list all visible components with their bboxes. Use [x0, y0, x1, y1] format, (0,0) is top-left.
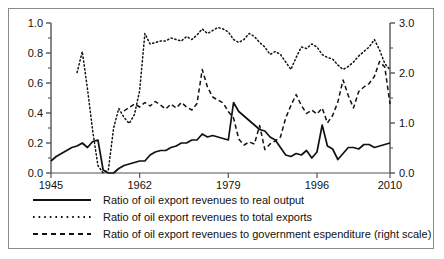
svg-text:0.0: 0.0 [399, 167, 414, 179]
figure-frame: 0.00.20.40.60.81.00.01.02.03.01945196219… [8, 8, 434, 249]
legend-swatch-dashed [31, 228, 93, 240]
svg-text:0.8: 0.8 [28, 47, 43, 59]
svg-text:1979: 1979 [216, 179, 240, 191]
svg-text:1996: 1996 [305, 179, 329, 191]
svg-text:1.0: 1.0 [399, 117, 414, 129]
svg-text:0.0: 0.0 [28, 167, 43, 179]
svg-text:2010: 2010 [378, 179, 402, 191]
svg-text:1945: 1945 [39, 179, 63, 191]
svg-text:1962: 1962 [127, 179, 151, 191]
legend-label: Ratio of oil export revenues to governme… [103, 228, 431, 240]
legend-item-total-exports: Ratio of oil export revenues to total ex… [31, 208, 421, 225]
legend-label: Ratio of oil export revenues to total ex… [103, 211, 312, 223]
series-line [51, 103, 390, 174]
svg-text:0.2: 0.2 [28, 137, 43, 149]
svg-text:0.4: 0.4 [28, 107, 43, 119]
legend-label: Ratio of oil export revenues to real out… [103, 194, 304, 206]
legend-item-real-output: Ratio of oil export revenues to real out… [31, 191, 421, 208]
svg-text:2.0: 2.0 [399, 67, 414, 79]
legend-swatch-solid [31, 194, 93, 206]
svg-text:3.0: 3.0 [399, 17, 414, 29]
series-line [124, 62, 390, 150]
series-line [77, 28, 390, 174]
legend-item-government-expenditure: Ratio of oil export revenues to governme… [31, 225, 421, 242]
svg-text:1.0: 1.0 [28, 17, 43, 29]
svg-text:0.6: 0.6 [28, 77, 43, 89]
legend-swatch-dotted [31, 211, 93, 223]
chart-legend: Ratio of oil export revenues to real out… [31, 191, 421, 242]
